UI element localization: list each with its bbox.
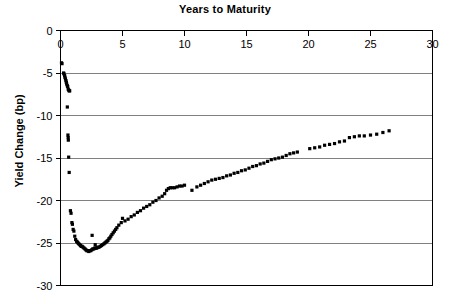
data-point: [229, 173, 232, 176]
data-point: [67, 156, 70, 159]
data-point: [221, 176, 224, 179]
data-point: [285, 154, 288, 157]
grid-lines: [61, 31, 433, 286]
data-point: [69, 212, 72, 215]
data-point: [145, 205, 148, 208]
data-point: [358, 134, 361, 137]
data-point: [333, 142, 336, 145]
data-point: [91, 234, 94, 237]
data-point: [233, 172, 236, 175]
data-point: [270, 158, 273, 161]
data-point: [210, 179, 213, 182]
data-point: [240, 169, 243, 172]
data-point: [206, 180, 209, 183]
svg-text:-20: -20: [37, 195, 53, 207]
svg-text:0: 0: [57, 38, 63, 50]
svg-text:-5: -5: [43, 67, 53, 79]
data-point: [375, 133, 378, 136]
data-point: [66, 105, 69, 108]
data-point: [353, 135, 356, 138]
data-point: [154, 199, 157, 202]
data-point: [218, 177, 221, 180]
data-point: [277, 156, 280, 159]
data-point: [68, 89, 71, 92]
svg-text:0: 0: [46, 25, 52, 37]
data-point: [369, 133, 372, 136]
data-point: [199, 184, 202, 187]
svg-text:10: 10: [178, 38, 190, 50]
svg-text:-25: -25: [37, 237, 53, 249]
data-point: [126, 218, 129, 221]
data-point: [244, 168, 247, 171]
data-point: [214, 178, 217, 181]
data-point: [94, 243, 97, 246]
data-point: [273, 157, 276, 160]
data-point: [388, 129, 391, 132]
data-point: [60, 62, 63, 65]
data-point: [262, 162, 265, 165]
data-point: [343, 139, 346, 142]
data-point: [225, 174, 228, 177]
data-point: [323, 144, 326, 147]
svg-text:15: 15: [240, 38, 252, 50]
data-point: [68, 171, 71, 174]
data-point: [163, 192, 166, 195]
svg-text:30: 30: [426, 38, 438, 50]
data-point: [247, 167, 250, 170]
svg-text:5: 5: [119, 38, 125, 50]
data-point: [133, 213, 136, 216]
data-point: [363, 134, 366, 137]
data-point: [130, 215, 133, 218]
data-point: [255, 164, 258, 167]
chart-container: Years to Maturity Yield Change (bp) 0510…: [0, 0, 450, 304]
data-point: [123, 219, 126, 222]
data-point: [292, 151, 295, 154]
data-point: [136, 211, 139, 214]
data-point: [72, 230, 75, 233]
data-point: [73, 235, 76, 238]
scatter-plot: 0510152025300-5-10-15-20-25-30: [0, 0, 450, 304]
svg-text:25: 25: [364, 38, 376, 50]
data-point: [288, 152, 291, 155]
data-point: [381, 131, 384, 134]
data-point: [67, 139, 70, 142]
data-point: [148, 203, 151, 206]
data-point: [236, 171, 239, 174]
data-point: [308, 147, 311, 150]
data-point: [183, 184, 186, 187]
data-point: [190, 189, 193, 192]
data-point: [71, 223, 74, 226]
data-point: [139, 209, 142, 212]
data-point: [259, 162, 262, 165]
data-point: [203, 182, 206, 185]
svg-text:20: 20: [302, 38, 314, 50]
data-points: [60, 61, 391, 253]
data-point: [296, 150, 299, 153]
data-point: [338, 140, 341, 143]
data-point: [266, 160, 269, 163]
svg-text:-10: -10: [37, 110, 53, 122]
data-point: [142, 207, 145, 210]
data-point: [328, 143, 331, 146]
data-point: [313, 146, 316, 149]
svg-text:-15: -15: [37, 152, 53, 164]
svg-text:-30: -30: [37, 280, 53, 292]
data-point: [318, 145, 321, 148]
data-point: [281, 156, 284, 159]
data-point: [348, 136, 351, 139]
data-point: [120, 221, 123, 224]
data-point: [195, 185, 198, 188]
data-point: [251, 165, 254, 168]
data-point: [157, 196, 160, 199]
data-point: [151, 201, 154, 204]
